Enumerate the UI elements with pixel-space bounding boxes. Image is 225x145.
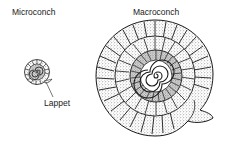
microconch-shell	[25, 60, 53, 86]
macroconch-shell	[96, 20, 213, 136]
ammonite-illustration	[0, 0, 225, 145]
lappet-leader-line	[46, 82, 53, 97]
